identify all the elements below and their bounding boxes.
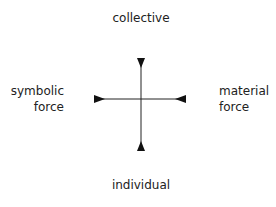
arrow-up-icon xyxy=(137,141,145,151)
arrow-left-icon xyxy=(175,95,186,103)
arrow-down-icon xyxy=(137,58,145,68)
arrow-right-icon xyxy=(94,95,105,103)
axes-cross xyxy=(0,0,276,207)
